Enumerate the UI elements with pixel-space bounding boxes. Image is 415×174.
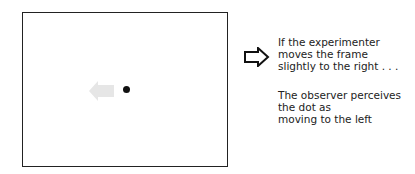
dot [123, 86, 130, 93]
perception-caption: The observer perceives the dot as moving… [278, 89, 401, 125]
left-arrow-icon [89, 80, 115, 102]
action-caption: If the experimenter moves the frame slig… [278, 36, 398, 72]
right-arrow-icon [244, 47, 270, 67]
